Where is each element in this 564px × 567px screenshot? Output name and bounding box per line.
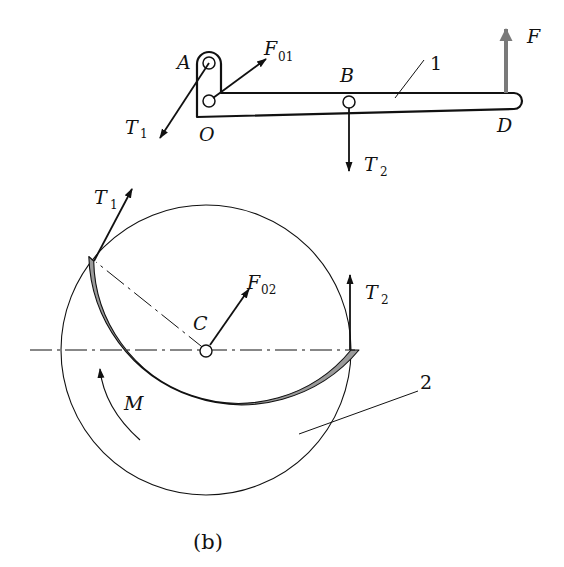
- label-d: D: [496, 114, 512, 136]
- label-f01-sub: 01: [278, 50, 293, 64]
- label-f: F: [526, 25, 541, 47]
- drum: T 1 T 2 F 02 C M 2: [30, 186, 432, 495]
- label-f01: F: [263, 37, 278, 59]
- center-c: [200, 345, 212, 357]
- label-o: O: [199, 123, 215, 145]
- label-t2-drum: T: [365, 281, 379, 303]
- label-part-1: 1: [430, 52, 442, 74]
- label-t1-lever-sub: 1: [140, 127, 148, 141]
- label-c: C: [193, 312, 208, 334]
- lever-body: [197, 52, 522, 117]
- brake-band: [89, 257, 359, 405]
- label-part-2: 2: [420, 371, 432, 393]
- label-a: A: [175, 51, 191, 73]
- lever: A O B D 1 F 01 T 1 T 2 F: [125, 25, 541, 179]
- label-t2-lever-sub: 2: [380, 165, 388, 179]
- pin-b: [343, 96, 355, 108]
- label-t1-drum: T: [94, 186, 108, 208]
- label-b: B: [339, 64, 354, 86]
- label-f02-sub: 02: [261, 283, 276, 297]
- label-t2-drum-sub: 2: [381, 293, 389, 307]
- radial-centerline: [96, 262, 206, 350]
- label-m: M: [123, 392, 144, 414]
- label-f02: F: [246, 271, 261, 293]
- leader-part-2: [299, 391, 418, 434]
- brake-diagram: A O B D 1 F 01 T 1 T 2 F T: [0, 0, 564, 567]
- force-f02-arrow: [210, 289, 249, 345]
- figure-caption: (b): [193, 530, 223, 554]
- label-t1-drum-sub: 1: [110, 198, 118, 212]
- label-t2-lever: T: [364, 153, 378, 175]
- label-t1-lever: T: [125, 116, 139, 138]
